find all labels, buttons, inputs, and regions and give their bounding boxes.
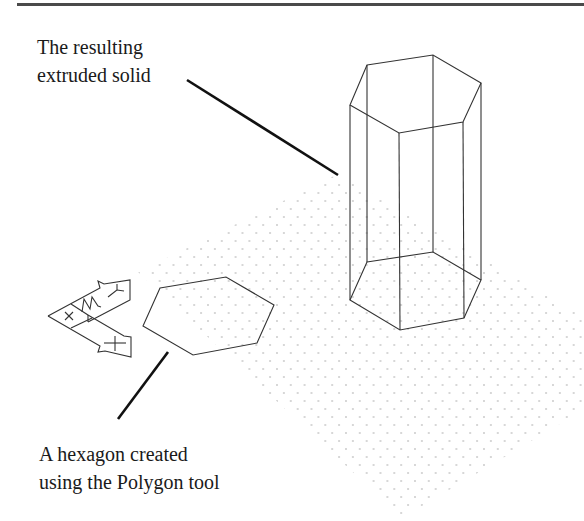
drawing-canvas — [0, 0, 584, 521]
leader-line-solid — [187, 80, 338, 175]
ucs-icon — [48, 280, 131, 357]
leader-line-hexagon — [118, 352, 168, 419]
isometric-grid — [0, 0, 584, 521]
